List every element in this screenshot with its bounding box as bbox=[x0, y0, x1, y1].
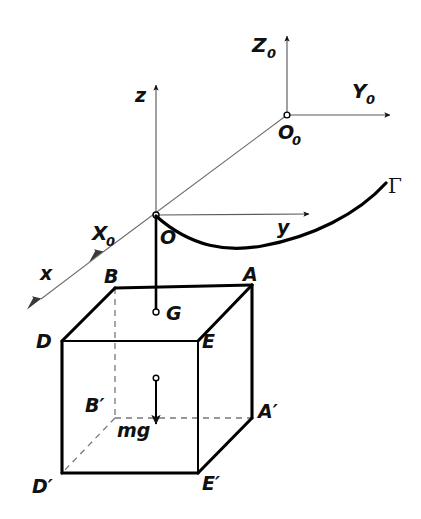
label-X0: X 0 bbox=[90, 221, 115, 249]
cube-edge-D-B bbox=[62, 288, 115, 341]
label-X0-subscript: 0 bbox=[106, 234, 115, 249]
origin-O0-marker bbox=[284, 112, 290, 118]
weight-origin-marker bbox=[153, 375, 159, 381]
cube-edge-Aprime-Eprime bbox=[198, 418, 252, 473]
axis-X0-line bbox=[103, 115, 287, 252]
label-vertex-Aprime: A′ bbox=[256, 400, 278, 422]
label-O: O bbox=[160, 226, 176, 248]
label-Z0: Z 0 bbox=[251, 33, 276, 61]
label-G: G bbox=[166, 302, 182, 324]
label-y: y bbox=[277, 216, 291, 238]
label-vertex-E: E bbox=[202, 330, 215, 352]
label-vertex-Dprime: D′ bbox=[32, 475, 53, 497]
label-gamma: Γ bbox=[388, 174, 402, 198]
physics-diagram-figure: Z 0 Y 0 X 0 O 0 z y x O Γ G mg bbox=[0, 0, 421, 519]
label-vertex-Bprime: B′ bbox=[85, 394, 105, 416]
axis-y-line bbox=[156, 214, 309, 215]
diagram-canvas: Z 0 Y 0 X 0 O 0 z y x O Γ G mg bbox=[0, 0, 421, 519]
label-x: x bbox=[39, 262, 53, 284]
label-mg: mg bbox=[117, 419, 150, 441]
center-of-mass-G-marker bbox=[153, 309, 159, 315]
label-Y0-subscript: 0 bbox=[366, 92, 375, 107]
curve-gamma bbox=[156, 183, 386, 248]
axis-x-arrowhead bbox=[27, 296, 42, 309]
cube-edge-B-A bbox=[115, 285, 252, 288]
label-z: z bbox=[134, 84, 147, 106]
label-Y0: Y 0 bbox=[352, 79, 375, 107]
label-vertex-D: D bbox=[36, 330, 52, 352]
label-vertex-B: B bbox=[104, 265, 118, 287]
cube-hidden-edge-Bprime-Dprime bbox=[62, 418, 115, 473]
label-Z0-base: Z bbox=[251, 33, 267, 57]
label-Z0-subscript: 0 bbox=[267, 46, 276, 61]
label-vertex-A: A bbox=[241, 263, 258, 285]
label-O0: O 0 bbox=[278, 121, 301, 148]
label-O0-subscript: 0 bbox=[292, 133, 301, 148]
label-vertex-Eprime: E′ bbox=[202, 472, 220, 494]
